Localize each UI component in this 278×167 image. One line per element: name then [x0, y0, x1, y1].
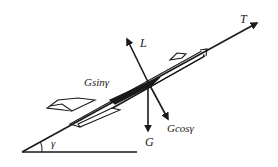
angle-arc: [41, 142, 43, 152]
weight-parallel-label: Gsinγ: [84, 77, 109, 88]
weight-perpendicular-label: Gcosγ: [167, 123, 194, 134]
thrust-label: T: [240, 13, 247, 25]
climb-angle-label: γ: [51, 138, 55, 149]
weight-perpendicular-vector: [148, 82, 168, 119]
aircraft-force-diagram: T L Gsinγ Gcosγ G γ: [0, 0, 278, 167]
aircraft-icon: [47, 49, 207, 127]
lift-label: L: [140, 37, 147, 49]
weight-label: G: [145, 136, 154, 148]
diagram-canvas: [0, 0, 278, 167]
